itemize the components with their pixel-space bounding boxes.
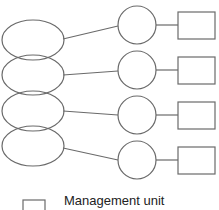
connector-ellipse-circle bbox=[63, 111, 118, 115]
row-2 bbox=[2, 51, 215, 95]
legend-rect-symbol-icon bbox=[23, 200, 45, 210]
ellipse-node bbox=[2, 91, 64, 131]
row-3 bbox=[2, 91, 215, 134]
connector-ellipse-circle bbox=[63, 148, 118, 160]
ellipse-node bbox=[2, 126, 64, 166]
circle-node bbox=[118, 96, 156, 134]
circle-node bbox=[118, 141, 156, 179]
row-4 bbox=[2, 126, 215, 179]
circle-node bbox=[118, 51, 156, 89]
ellipse-node bbox=[2, 20, 64, 60]
management-unit-rect bbox=[178, 147, 215, 174]
circle-node bbox=[118, 6, 156, 44]
connector-ellipse-circle bbox=[63, 71, 118, 75]
connector-ellipse-circle bbox=[63, 26, 118, 39]
ellipse-node bbox=[2, 55, 64, 95]
management-unit-rect bbox=[178, 57, 215, 84]
legend-label-management-unit: Management unit bbox=[64, 193, 164, 208]
management-unit-rect bbox=[178, 12, 215, 39]
management-unit-rect bbox=[178, 102, 215, 129]
row-1 bbox=[2, 6, 215, 60]
diagram-canvas bbox=[0, 0, 219, 210]
